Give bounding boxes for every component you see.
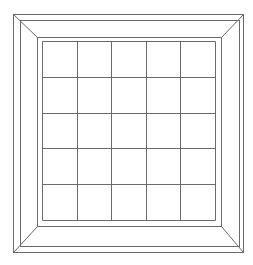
grid-5x5 [43, 42, 216, 221]
mitre-bottom-left [14, 227, 38, 253]
inner-frame-border [38, 38, 222, 227]
frame-diagram [0, 0, 253, 265]
mitre-top-left [14, 15, 38, 38]
outer-frame-border [14, 15, 244, 253]
mitre-top-right [222, 15, 244, 38]
picture-frame [14, 15, 244, 253]
mitre-bottom-right [222, 227, 244, 253]
frame-border-2 [21, 21, 240, 247]
